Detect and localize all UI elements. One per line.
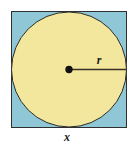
geometry-figure: r x	[0, 0, 136, 145]
radius-label: r	[97, 53, 102, 67]
circle-center-dot	[65, 66, 72, 73]
figure-canvas: r x	[0, 0, 136, 145]
side-length-label: x	[63, 130, 70, 144]
